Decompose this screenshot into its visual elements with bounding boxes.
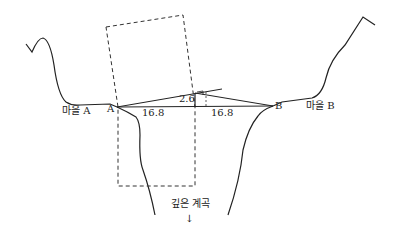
village-a-label: 마을 A (62, 106, 90, 116)
right-cliff (228, 106, 273, 215)
down-arrow-icon: ↓ (185, 214, 193, 224)
right-terrain (273, 17, 375, 106)
slant-line-b (195, 93, 273, 106)
distance-left-label: 16.8 (142, 108, 164, 118)
left-cliff (117, 107, 155, 215)
left-terrain (26, 38, 117, 107)
village-b-label: 마을 B (306, 101, 335, 111)
distance-right-label: 16.8 (211, 108, 233, 118)
point-a-label: A (107, 104, 114, 114)
point-b-label: B (275, 101, 282, 111)
height-label: 2.6 (179, 94, 195, 104)
valley-label: 깊은 계곡 (171, 199, 210, 209)
